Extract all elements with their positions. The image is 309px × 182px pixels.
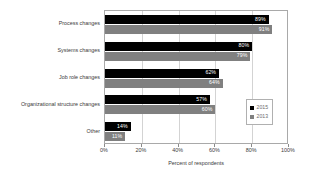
legend-swatch: [250, 115, 254, 119]
legend-swatch: [250, 106, 254, 110]
bar-value-label: 91%: [259, 27, 270, 32]
chart-legend: 20152013: [246, 99, 273, 125]
bar-value-label: 57%: [196, 97, 207, 102]
legend-label: 2013: [257, 114, 269, 119]
bar-2015: 14%: [105, 122, 131, 131]
legend-label: 2015: [257, 105, 269, 110]
bar-2015: 57%: [105, 95, 210, 104]
bar-2013: 60%: [105, 105, 215, 114]
bar-group: 80%79%: [105, 38, 287, 65]
x-axis-title: Percent of respondents: [104, 161, 288, 166]
x-tick-label: 60%: [209, 148, 220, 153]
bar-group: 89%91%: [105, 11, 287, 38]
legend-item: 2013: [250, 112, 268, 121]
bar-value-label: 80%: [239, 44, 250, 49]
bar-2013: 64%: [105, 79, 223, 88]
bar-2015: 89%: [105, 15, 269, 24]
category-label: Job role changes: [0, 74, 100, 80]
category-label: Process changes: [0, 20, 100, 26]
bar-value-label: 79%: [237, 54, 248, 59]
x-tick-label: 20%: [135, 148, 146, 153]
bar-2015: 80%: [105, 42, 252, 51]
bar-2013: 11%: [105, 132, 125, 141]
x-tick-label: 100%: [281, 148, 295, 153]
bar-value-label: 64%: [209, 80, 220, 85]
bar-2013: 79%: [105, 52, 250, 61]
category-label: Systems changes: [0, 47, 100, 53]
bar-2015: 62%: [105, 69, 219, 78]
x-tick-label: 80%: [246, 148, 257, 153]
legend-item: 2015: [250, 103, 268, 112]
bar-value-label: 60%: [202, 107, 213, 112]
bar-chart: Process changesSystems changesJob role c…: [0, 0, 309, 182]
bar-value-label: 62%: [205, 70, 216, 75]
bar-value-label: 11%: [112, 134, 122, 139]
x-tick-label: 0%: [100, 148, 108, 153]
bar-group: 62%64%: [105, 65, 287, 92]
category-label: Other: [0, 128, 100, 134]
bar-value-label: 89%: [255, 17, 266, 22]
bar-value-label: 14%: [117, 124, 128, 129]
x-tick-label: 40%: [172, 148, 183, 153]
bar-2013: 91%: [105, 25, 272, 34]
category-label: Organizational structure changes: [0, 101, 100, 107]
